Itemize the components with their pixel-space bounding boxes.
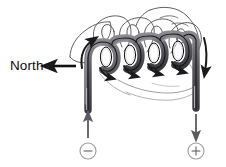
north-label: North <box>10 59 44 73</box>
current-exit-arrow <box>204 38 206 72</box>
negative-terminal-group <box>80 116 96 159</box>
positive-terminal-group <box>188 114 204 159</box>
coil-lead-wires <box>87 84 196 112</box>
solenoid-hand-diagram <box>0 0 226 167</box>
diagram-canvas: North <box>0 0 226 167</box>
